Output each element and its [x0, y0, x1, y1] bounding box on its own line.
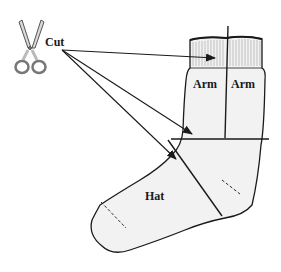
sock-outline — [91, 37, 265, 253]
arm-right-label: Arm — [231, 77, 255, 91]
hat-label: Hat — [145, 189, 164, 203]
cut-label: Cut — [45, 35, 64, 49]
sock-cutting-diagram: Cut Arm Arm Hat — [0, 0, 281, 272]
scissors-icon — [16, 20, 46, 73]
arm-left-label: Arm — [193, 77, 217, 91]
sock — [91, 37, 265, 253]
